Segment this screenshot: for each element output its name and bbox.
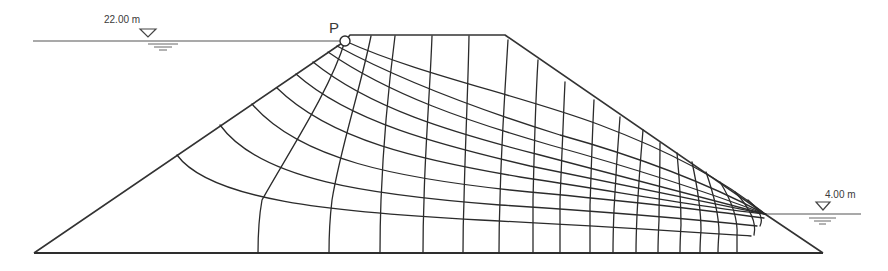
water-level-triangle-icon xyxy=(140,29,156,37)
point-p-circle-icon xyxy=(340,36,350,46)
flow-line xyxy=(220,125,757,226)
flow-net-figure: 22.00 m 4.00 m xyxy=(0,0,888,271)
point-p-label: P xyxy=(329,19,339,36)
equipotential-line xyxy=(658,143,660,253)
upstream-level-label: 22.00 m xyxy=(104,14,140,25)
upstream-water-level: 22.00 m xyxy=(33,14,340,50)
water-level-triangle-icon xyxy=(816,202,830,210)
equipotential-line xyxy=(590,100,594,253)
equipotential-line xyxy=(636,130,643,253)
equipotential-line xyxy=(463,36,469,253)
flow-net-svg: 22.00 m 4.00 m xyxy=(0,0,888,271)
flow-line xyxy=(337,46,765,214)
point-p-marker: P xyxy=(329,19,350,46)
equipotential-line xyxy=(258,41,345,253)
equipotential-line xyxy=(706,172,719,253)
flow-lines xyxy=(177,41,766,236)
flow-line xyxy=(328,52,765,214)
equipotential-line xyxy=(423,36,432,253)
equipotential-line xyxy=(560,82,565,253)
equipotential-lines xyxy=(258,36,762,253)
equipotential-line xyxy=(677,153,681,253)
phreatic-line xyxy=(345,41,765,214)
equipotential-line xyxy=(613,117,620,253)
flow-line xyxy=(296,74,765,214)
equipotential-line xyxy=(533,60,538,253)
downstream-level-label: 4.00 m xyxy=(825,189,856,200)
downstream-water-level: 4.00 m xyxy=(765,189,861,224)
equipotential-line xyxy=(692,162,701,253)
